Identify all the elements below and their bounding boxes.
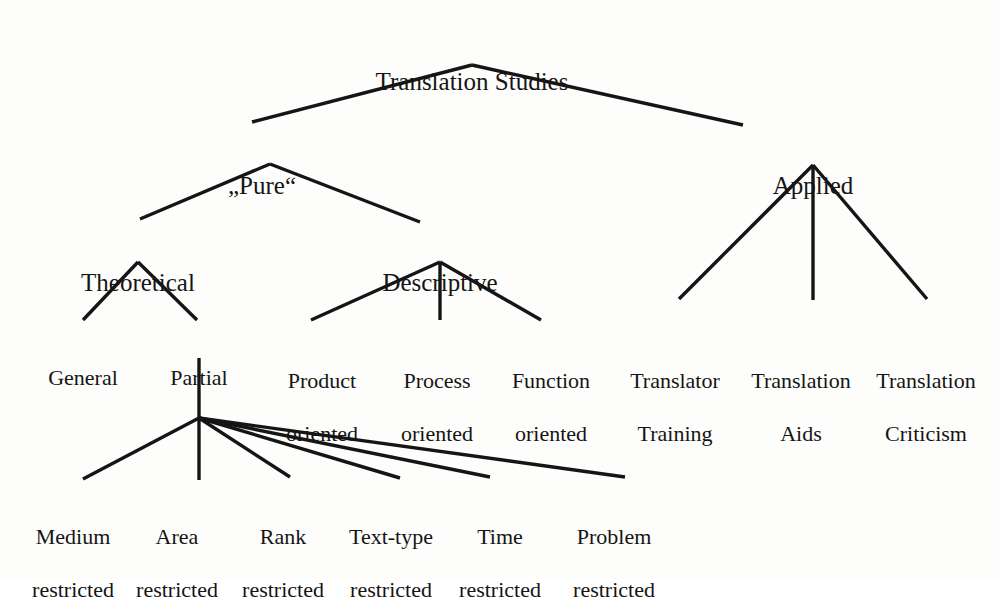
- node-general: General: [48, 341, 118, 415]
- node-time-restricted-label-line1: Time: [459, 524, 541, 551]
- node-function-oriented-label-line2: oriented: [512, 421, 590, 448]
- edge-fan_hub-to-medium_restricted: [83, 418, 199, 479]
- node-applied: Applied: [773, 144, 854, 228]
- node-rank-restricted-label-line1: Rank: [242, 524, 324, 551]
- node-time-restricted-label-line2: restricted: [459, 577, 541, 601]
- node-descriptive: Descriptive: [382, 241, 497, 325]
- node-translation-criticism: Translation Criticism: [876, 341, 975, 475]
- node-translation-aids-label-line1: Translation: [751, 368, 850, 395]
- node-partial-label: Partial: [170, 366, 227, 391]
- node-applied-label: Applied: [773, 172, 854, 200]
- node-area-restricted-label-line2: restricted: [136, 577, 218, 601]
- node-texttype-restricted-label-line1: Text-type: [349, 524, 433, 551]
- node-problem-restricted-label-line2: restricted: [573, 577, 655, 601]
- node-product-oriented-label-line2: oriented: [286, 421, 358, 448]
- node-translation-aids-label-line2: Aids: [751, 421, 850, 448]
- node-function-oriented: Function oriented: [512, 341, 590, 475]
- node-process-oriented-label-line1: Process: [401, 368, 473, 395]
- node-function-oriented-label-line1: Function: [512, 368, 590, 395]
- node-process-oriented-label-line2: oriented: [401, 421, 473, 448]
- node-product-oriented: Product oriented: [286, 341, 358, 475]
- node-theoretical: Theoretical: [81, 241, 195, 325]
- node-problem-restricted-label-line1: Problem: [573, 524, 655, 551]
- node-medium-restricted: Medium restricted: [32, 497, 114, 601]
- node-partial: Partial: [170, 341, 227, 415]
- node-translation-criticism-label-line2: Criticism: [876, 421, 975, 448]
- node-time-restricted: Time restricted: [459, 497, 541, 601]
- node-translation-criticism-label-line1: Translation: [876, 368, 975, 395]
- node-translator-training-label-line1: Translator: [630, 368, 720, 395]
- node-pure-label: „Pure“: [228, 172, 296, 200]
- node-process-oriented: Process oriented: [401, 341, 473, 475]
- node-pure: „Pure“: [228, 144, 296, 228]
- node-texttype-restricted: Text-type restricted: [349, 497, 433, 601]
- node-translator-training-label-line2: Training: [630, 421, 720, 448]
- node-root-label: Translation Studies: [376, 68, 569, 96]
- node-general-label: General: [48, 366, 118, 391]
- node-medium-restricted-label-line2: restricted: [32, 577, 114, 601]
- node-area-restricted: Area restricted: [136, 497, 218, 601]
- node-translator-training: Translator Training: [630, 341, 720, 475]
- node-theoretical-label: Theoretical: [81, 269, 195, 297]
- node-area-restricted-label-line1: Area: [136, 524, 218, 551]
- node-medium-restricted-label-line1: Medium: [32, 524, 114, 551]
- node-rank-restricted-label-line2: restricted: [242, 577, 324, 601]
- node-texttype-restricted-label-line2: restricted: [349, 577, 433, 601]
- node-rank-restricted: Rank restricted: [242, 497, 324, 601]
- node-problem-restricted: Problem restricted: [573, 497, 655, 601]
- node-product-oriented-label-line1: Product: [286, 368, 358, 395]
- node-descriptive-label: Descriptive: [382, 269, 497, 297]
- node-translation-aids: Translation Aids: [751, 341, 850, 475]
- node-root: Translation Studies: [376, 40, 569, 124]
